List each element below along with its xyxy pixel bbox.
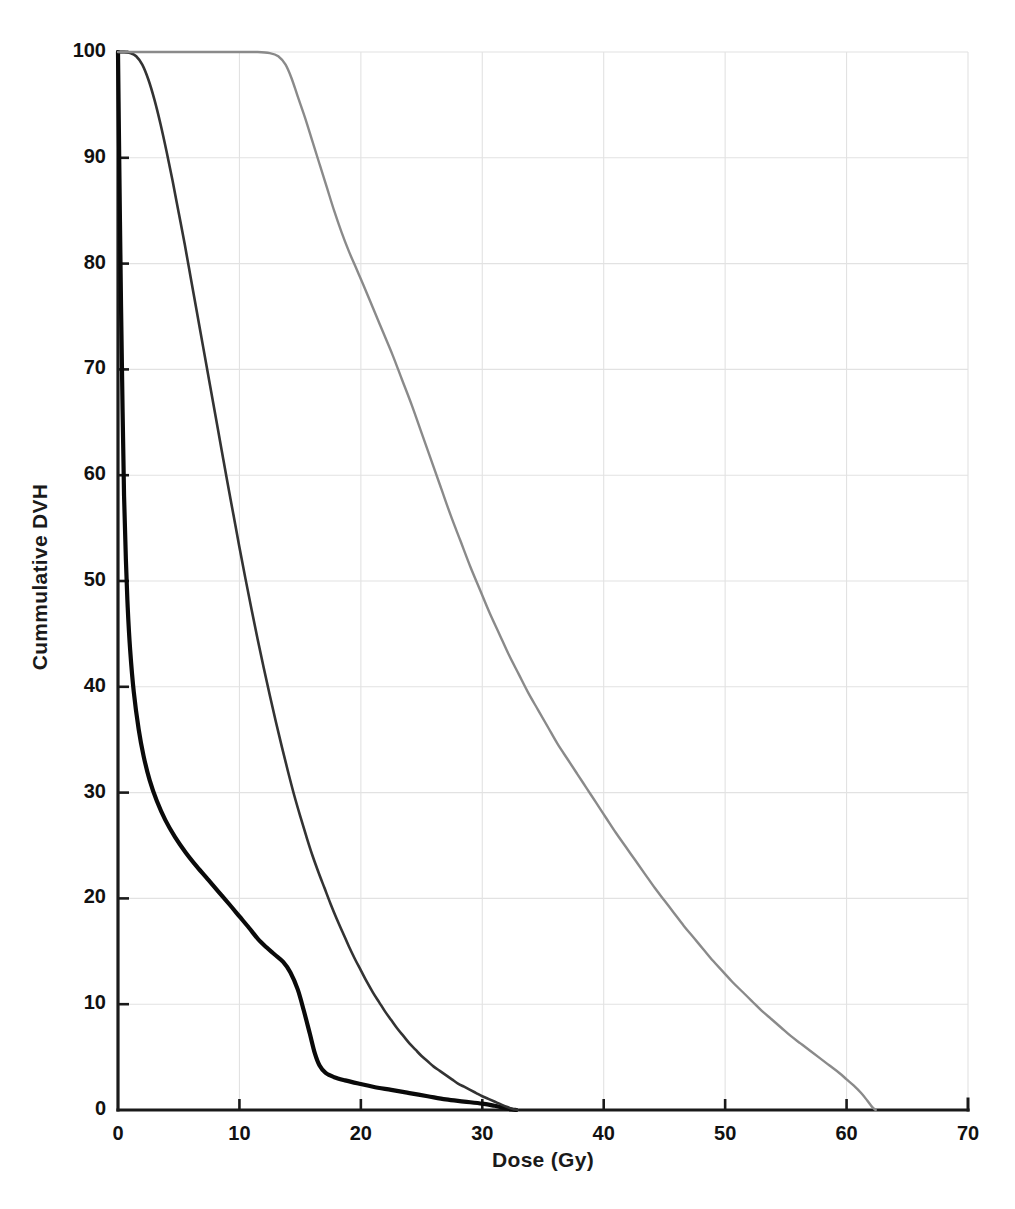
y-tick-label: 20	[44, 885, 106, 908]
x-axis-title: Dose (Gy)	[118, 1148, 968, 1172]
x-tick-label: 30	[451, 1122, 513, 1145]
y-tick-label: 80	[44, 251, 106, 274]
y-tick-label: 30	[44, 780, 106, 803]
x-tick-label: 60	[816, 1122, 878, 1145]
x-tick-label: 50	[694, 1122, 756, 1145]
y-tick-label: 90	[44, 145, 106, 168]
chart-plot-area	[0, 0, 1015, 1209]
y-tick-label: 50	[44, 568, 106, 591]
x-tick-label: 40	[573, 1122, 635, 1145]
y-tick-label: 60	[44, 462, 106, 485]
dvh-chart-figure: 0102030405060708090100 010203040506070 C…	[0, 0, 1015, 1209]
y-tick-label: 10	[44, 991, 106, 1014]
y-tick-label: 40	[44, 674, 106, 697]
y-tick-label: 100	[44, 39, 106, 62]
x-tick-label: 70	[937, 1122, 999, 1145]
y-axis-title: Cummulative DVH	[28, 457, 52, 697]
x-tick-label: 20	[330, 1122, 392, 1145]
y-tick-label: 0	[44, 1097, 106, 1120]
x-tick-label: 0	[87, 1122, 149, 1145]
x-tick-label: 10	[208, 1122, 270, 1145]
y-tick-label: 70	[44, 356, 106, 379]
